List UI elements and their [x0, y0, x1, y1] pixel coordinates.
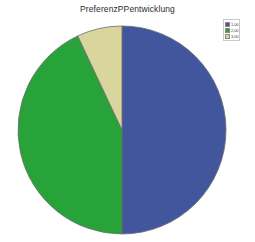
pie-slice[interactable] [122, 26, 226, 234]
pie-plot-area [0, 0, 255, 242]
legend-swatch-icon [225, 22, 230, 27]
pie-chart-figure: PreferenzPPentwicklung 1,002,003,00 [0, 0, 255, 242]
chart-legend: 1,002,003,00 [223, 19, 240, 41]
pie-svg [0, 0, 255, 242]
legend-swatch-icon [225, 28, 230, 33]
legend-item[interactable]: 3,00 [225, 33, 238, 39]
legend-swatch-icon [225, 34, 230, 39]
legend-item-label: 1,00 [231, 22, 238, 27]
legend-item-label: 3,00 [231, 34, 238, 39]
legend-item-label: 2,00 [231, 28, 238, 33]
pie-slice-group [18, 26, 226, 234]
